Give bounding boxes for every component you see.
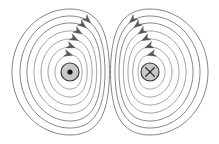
field-direction-arrow-icon xyxy=(64,50,74,59)
field-direction-arrow-icon xyxy=(66,42,76,51)
current-out-of-page-dot-icon xyxy=(67,69,72,74)
field-direction-arrow-icon xyxy=(73,26,84,36)
field-direction-arrow-icon xyxy=(144,42,154,51)
right-wire-current-in-marker xyxy=(141,63,159,81)
field-line-canvas xyxy=(0,0,219,144)
left-wire-current-out-marker xyxy=(61,63,79,81)
magnetic-field-diagram xyxy=(0,0,219,144)
field-direction-arrow-icon xyxy=(136,26,147,36)
field-direction-arrow-icon xyxy=(146,50,156,59)
